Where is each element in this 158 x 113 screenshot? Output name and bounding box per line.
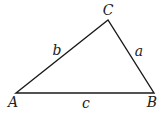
triangle-diagram: C A B b a c xyxy=(0,0,158,113)
vertex-label-c: C xyxy=(103,2,114,18)
side-label-c: c xyxy=(82,95,90,111)
side-label-b: b xyxy=(53,42,62,58)
vertex-label-a: A xyxy=(6,94,18,110)
triangle-abc xyxy=(16,20,154,93)
vertex-label-b: B xyxy=(146,94,157,110)
side-label-a: a xyxy=(135,43,143,59)
